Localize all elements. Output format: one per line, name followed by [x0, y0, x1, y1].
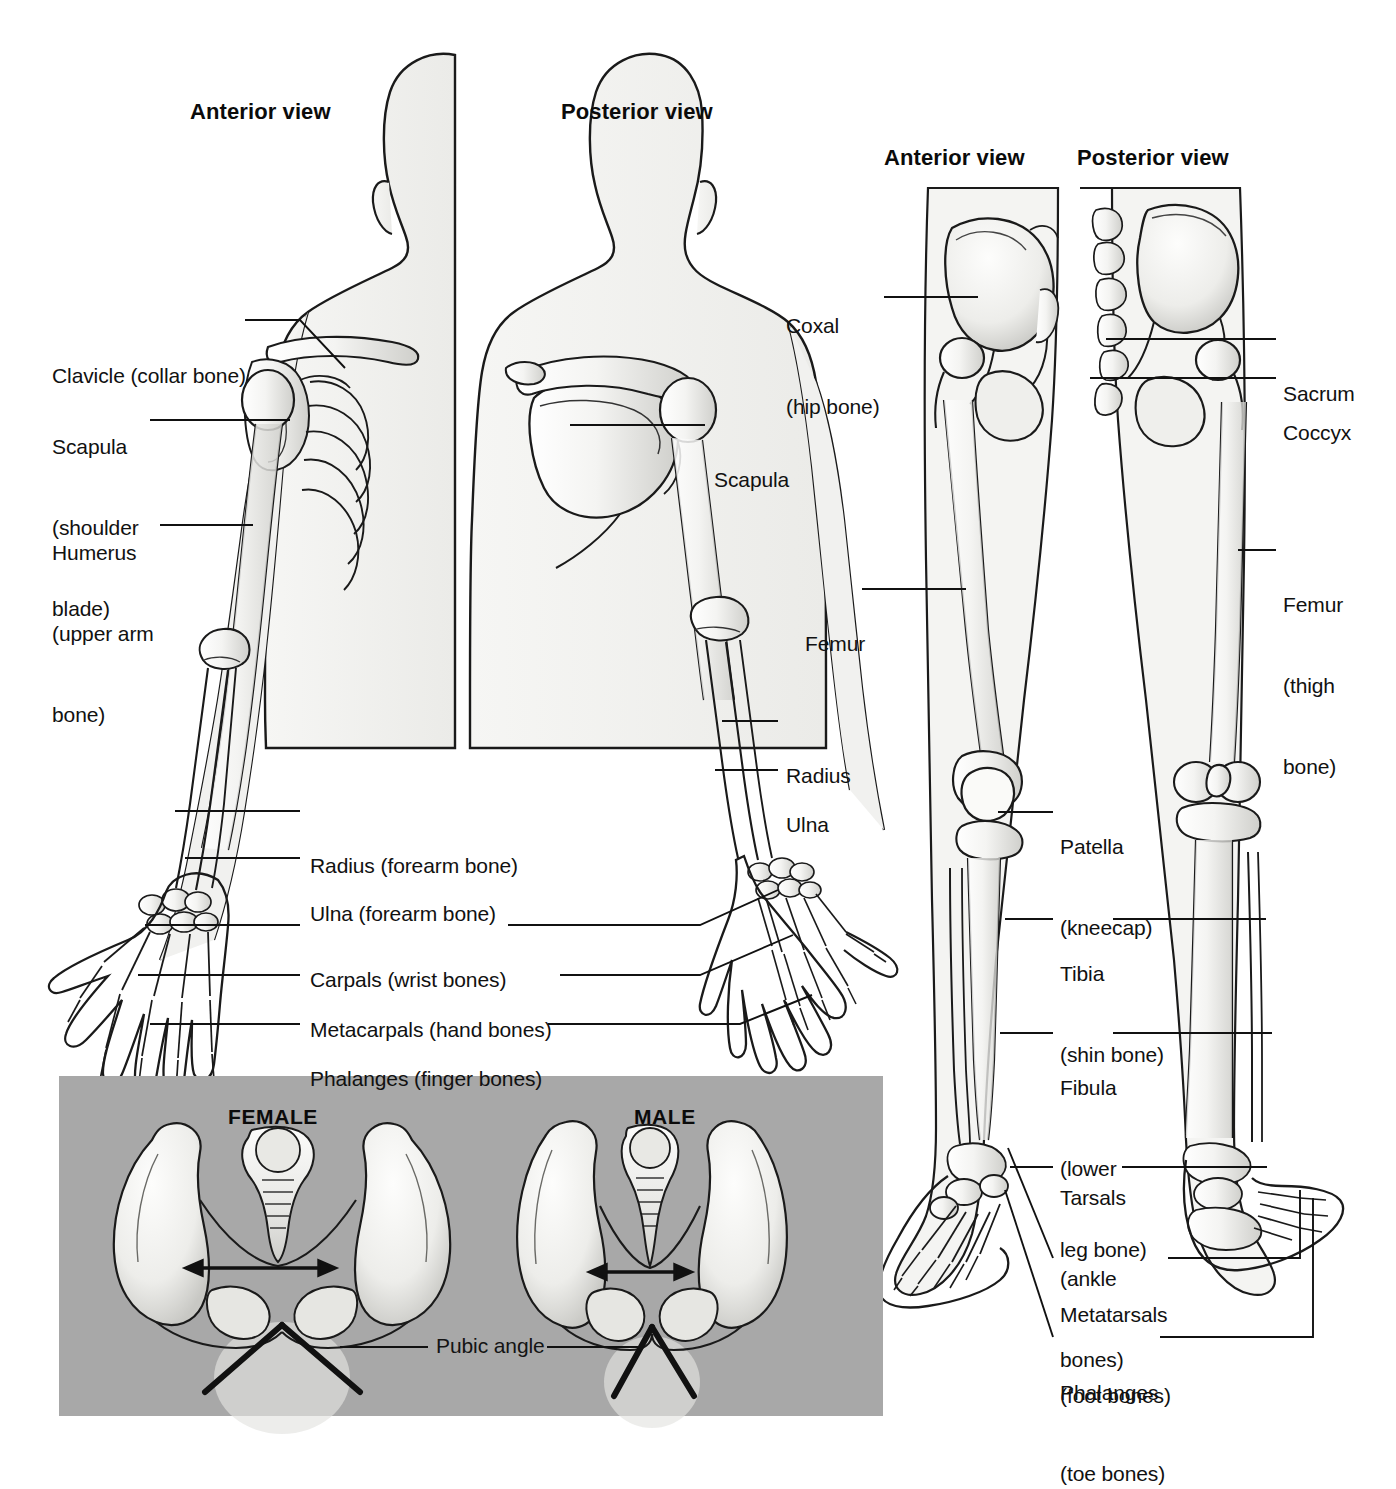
- label-femur-posterior-line-2: (thigh: [1283, 672, 1343, 699]
- label-humerus-line-3: bone): [52, 701, 154, 728]
- label-coxal-line-1: Coxal: [786, 312, 880, 339]
- label-humerus-line-1: Humerus: [52, 539, 154, 566]
- label-femur-anterior-line-1: Femur: [805, 630, 865, 657]
- label-fibula-line-1: Fibula: [1060, 1074, 1147, 1101]
- label-scapula-anterior-line-1: Scapula: [52, 433, 139, 460]
- lower-limb-posterior-view-heading: Posterior view: [1077, 145, 1229, 171]
- label-humerus-line-2: (upper arm: [52, 620, 154, 647]
- upper-limb-posterior-view-heading: Posterior view: [561, 99, 713, 125]
- label-tarsals-line-1: Tarsals: [1060, 1184, 1126, 1211]
- label-scapula-posterior-line-1: Scapula: [714, 466, 789, 493]
- label-coxal-line-2: (hip bone): [786, 393, 880, 420]
- female-pelvis-heading: FEMALE: [228, 1105, 318, 1129]
- label-phalanges-finger-line-1: Phalanges (finger bones): [310, 1065, 542, 1092]
- label-coccyx: Coccyx: [1283, 365, 1351, 500]
- label-phalanges-finger: Phalanges (finger bones): [310, 1011, 542, 1146]
- label-tibia-line-1: Tibia: [1060, 960, 1164, 987]
- label-femur-posterior-line-3: bone): [1283, 753, 1343, 780]
- label-ulna-posterior: Ulna: [786, 757, 829, 892]
- anterior-leg: [879, 188, 1058, 1308]
- label-ulna-posterior-line-1: Ulna: [786, 811, 829, 838]
- label-phalanges-toe: Phalanges (toe bones): [1060, 1325, 1165, 1489]
- label-phalanges-toe-line-2: (toe bones): [1060, 1460, 1165, 1487]
- label-phalanges-toe-line-1: Phalanges: [1060, 1379, 1165, 1406]
- label-pubic-angle: Pubic angle: [436, 1332, 545, 1359]
- label-metatarsals-line-1: Metatarsals: [1060, 1301, 1171, 1328]
- male-pelvis-heading: MALE: [634, 1105, 696, 1129]
- label-coccyx-line-1: Coccyx: [1283, 419, 1351, 446]
- lower-limb-anterior-view-heading: Anterior view: [884, 145, 1025, 171]
- label-scapula-posterior: Scapula: [714, 412, 789, 547]
- label-humerus: Humerus (upper arm bone): [52, 485, 154, 782]
- label-femur-posterior-line-1: Femur: [1283, 591, 1343, 618]
- label-femur-posterior: Femur (thigh bone): [1283, 537, 1343, 834]
- upper-limb-anterior-view-heading: Anterior view: [190, 99, 331, 125]
- label-coxal: Coxal (hip bone): [786, 258, 880, 474]
- label-patella-line-1: Patella: [1060, 833, 1152, 860]
- label-femur-anterior: Femur: [805, 576, 865, 711]
